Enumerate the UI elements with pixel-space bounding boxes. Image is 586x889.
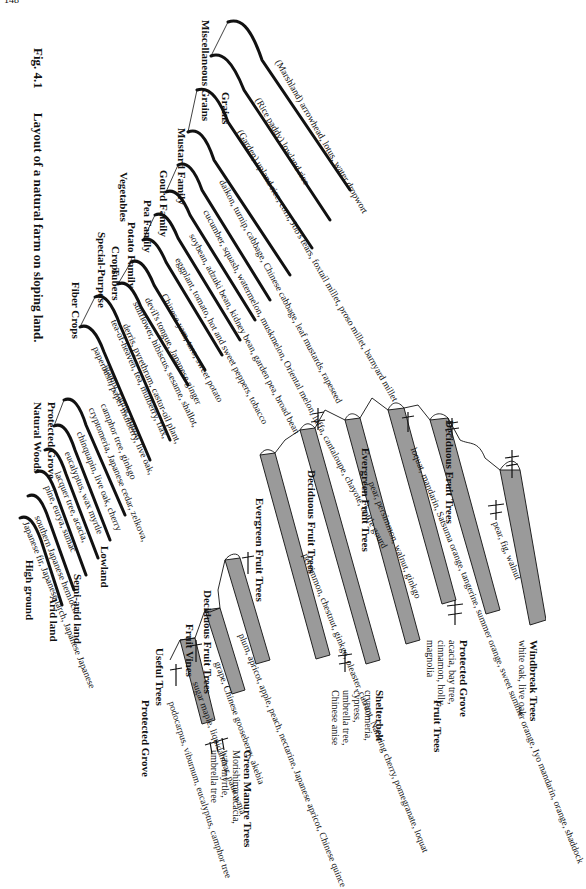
green-manure-line: wax myrtle, — [220, 750, 231, 847]
special-purpose-heading: Special-Purpose — [96, 232, 108, 308]
protected-grove-block: Protected Grove acacia, bay tree, cinnam… — [425, 640, 470, 717]
fruit-group-deciduous-2: Deciduous Fruit Trees — [306, 470, 318, 574]
fruit-group-protected-grove: Protected Grove — [140, 700, 152, 777]
fruit-group-deciduous-3: Deciduous Fruit Trees — [444, 420, 456, 524]
shelterbelt-line: cryptomeria, — [363, 690, 374, 746]
zone-high-ground: High ground — [24, 560, 36, 620]
shelterbelt-line: Chinese anise — [330, 690, 341, 746]
veg-family-mustard: Mustard Family — [176, 128, 188, 205]
shelterbelt-block: Shelterbelt cryptomeria, cypress, umbrel… — [330, 690, 386, 746]
protected-grove-heading: Protected Grove — [458, 640, 470, 717]
protected-grove-heading-top: Protected Grove — [46, 402, 58, 479]
protected-grove-line: magnolia — [425, 640, 436, 717]
fruit-group-fruit-vines: Fruit Vines — [184, 624, 196, 677]
fruit-group-evergreen-1: Evergreen Fruit Trees — [254, 498, 266, 602]
natural-woods-heading: Natural Woods — [32, 402, 44, 473]
vegetables-heading: Vegetables — [118, 172, 130, 222]
grains-heading: Grains — [220, 92, 232, 124]
grain-family-misc: Miscellaneous Grains — [200, 20, 212, 121]
fruit-group-useful-trees: Useful Trees — [154, 648, 166, 706]
green-manure-heading: Green Manure Trees — [242, 750, 254, 847]
veg-family-potato: Potato Family — [126, 222, 138, 288]
windbreak-block: Windbreak Trees white oak, live oak — [517, 640, 540, 721]
fruit-group-evergreen-2: Evergreen Fruit Trees — [360, 448, 372, 552]
protected-grove-line: cinnamon, holly, — [436, 640, 447, 717]
green-manure-line: umbrella tree — [209, 750, 220, 847]
green-manure-line: Morishima acacia, — [231, 750, 242, 847]
fruit-group-deciduous-1: Deciduous Fruit Trees — [202, 590, 214, 694]
windbreak-line: white oak, live oak — [517, 640, 528, 721]
shelterbelt-line: cypress, — [352, 690, 363, 746]
shelterbelt-heading: Shelterbelt — [374, 690, 386, 746]
veg-family-gourd: Gourd Family — [158, 170, 170, 237]
fiber-crops-heading: Fiber Crops — [70, 282, 82, 339]
shelterbelt-line: umbrella tree, — [341, 690, 352, 746]
veg-family-tubers: Tubers — [110, 268, 122, 301]
windbreak-heading: Windbreak Trees — [528, 640, 540, 721]
zone-lowland: Lowland — [99, 546, 111, 588]
protected-grove-line: acacia, bay tree, — [447, 640, 458, 717]
veg-family-pea: Pea Family — [142, 200, 154, 253]
green-manure-block: Green Manure Trees Morishima acacia, wax… — [209, 750, 254, 847]
